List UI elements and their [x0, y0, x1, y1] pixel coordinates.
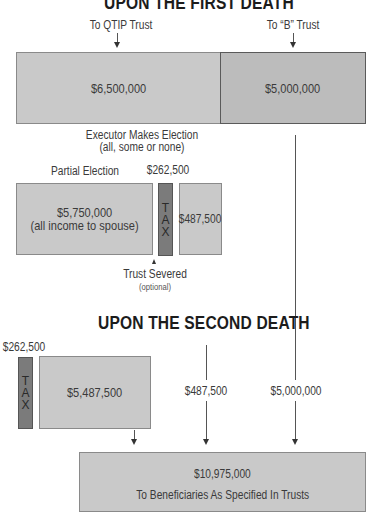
arrow-down-icon [203, 439, 209, 445]
total-label: To Beneficiaries As Specified In Trusts [136, 488, 309, 502]
qtip-amount: $6,500,000 [91, 81, 146, 96]
total-beneficiaries-box: $10,975,000 To Beneficiaries As Specifie… [79, 452, 366, 512]
remaining-amount: $5,487,500 [67, 385, 122, 400]
first-death-title: UPON THE FIRST DEATH [104, 0, 294, 14]
trust-severed-label: Trust Severed [117, 267, 194, 281]
arrow-down-icon [114, 42, 120, 48]
severed-flow-line-top [206, 345, 207, 380]
tax-bar-second: T A X [18, 357, 33, 429]
qtip-box: $6,500,000 [16, 52, 221, 124]
b-trust-box: $5,000,000 [220, 52, 366, 124]
b-trust-amount-second: $5,000,000 [264, 384, 329, 398]
tax-letter: X [161, 226, 169, 238]
partial-election-box: $5,750,000 (all income to spouse) [16, 183, 153, 255]
severed-flow-line-bottom [206, 401, 207, 440]
tax-bar-first: T A X [158, 183, 173, 256]
tax-letter: T [162, 202, 169, 214]
arrow-down-icon [292, 439, 298, 445]
qtip-label: To QTIP Trust [83, 18, 160, 32]
arrow-up-icon [152, 259, 156, 264]
tax-letter: A [161, 214, 169, 226]
b-trust-flow-line-bottom [295, 401, 296, 440]
b-trust-amount: $5,000,000 [265, 81, 320, 96]
tax-letter: X [21, 399, 29, 411]
remaining-box: $5,487,500 [39, 356, 151, 429]
severed-amount: $487,500 [179, 212, 222, 226]
severed-box: $487,500 [179, 183, 222, 255]
partial-note: (all income to spouse) [30, 219, 138, 232]
arrow-down-icon [131, 439, 137, 445]
severed-amount-second: $487,500 [181, 384, 232, 398]
b-trust-label: To “B” Trust [259, 18, 327, 32]
trust-severed-note: (optional) [117, 282, 194, 292]
total-amount: $10,975,000 [194, 467, 251, 481]
executor-election-note: (all, some or none) [74, 140, 210, 154]
second-death-title: UPON THE SECOND DEATH [98, 312, 310, 334]
tax-amount-first: $262,500 [142, 163, 195, 177]
b-trust-flow-line-mid [295, 343, 296, 380]
partial-election-label: Partial Election [47, 164, 124, 178]
arrow-down-icon [290, 42, 296, 48]
tax-amount-second: $262,500 [0, 340, 48, 354]
